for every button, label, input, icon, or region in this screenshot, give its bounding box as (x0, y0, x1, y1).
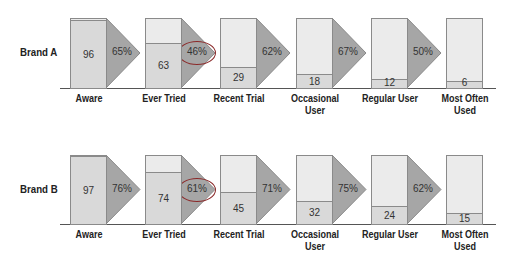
stage-bar: 12 (371, 18, 408, 89)
stage-bar: 6 (446, 18, 483, 89)
bar-value: 96 (71, 49, 106, 60)
stage-bar: 74 (145, 155, 182, 225)
baseline-axis (60, 224, 496, 225)
stage-label-line1: Occasional (279, 93, 351, 105)
bar-value: 97 (71, 185, 106, 196)
brand-label: Brand B (20, 183, 58, 195)
stage-label: Recent Trial (203, 93, 275, 105)
stage-label-line2: Used (429, 241, 501, 253)
stage-label-line1: Ever Tried (128, 93, 200, 105)
stage-label: OccasionalUser (279, 229, 351, 253)
conversion-rate: 62% (406, 183, 440, 194)
highlight-circle (178, 178, 216, 202)
stage-label: Ever Tried (128, 93, 200, 105)
stage-bar: 15 (446, 155, 483, 225)
conversion-rate: 65% (105, 46, 139, 57)
stage-label-line2: User (279, 241, 351, 253)
bar-value: 15 (447, 213, 482, 224)
stage-label-line2: User (279, 105, 351, 117)
brand-label: Brand A (20, 46, 57, 58)
bar-value: 63 (146, 60, 181, 71)
stage-bar: 29 (220, 18, 257, 89)
stage-label: Ever Tried (128, 229, 200, 241)
stage-bar: 63 (145, 18, 182, 89)
bar-value: 18 (297, 76, 332, 87)
conversion-rate: 76% (105, 183, 139, 194)
bar-value: 6 (447, 77, 482, 88)
stage-label-line1: Most Often (429, 229, 501, 241)
stage-bar: 45 (220, 155, 257, 225)
stage-bar: 24 (371, 155, 408, 225)
stage-bar: 18 (296, 18, 333, 89)
stage-label-line1: Occasional (279, 229, 351, 241)
conversion-rate: 62% (255, 46, 289, 57)
stage-bar: 32 (296, 155, 333, 225)
stage-bar: 97 (70, 155, 107, 225)
stage-label-line1: Recent Trial (203, 229, 275, 241)
bar-value: 45 (221, 203, 256, 214)
stage-label: Most OftenUsed (429, 229, 501, 253)
stage-label: Aware (53, 93, 125, 105)
stage-label: Recent Trial (203, 229, 275, 241)
bar-value: 32 (297, 207, 332, 218)
stage-label-line1: Most Often (429, 93, 501, 105)
bar-value: 29 (221, 72, 256, 83)
conversion-rate: 67% (331, 46, 365, 57)
stage-label-line1: Aware (53, 229, 125, 241)
highlight-circle (178, 41, 216, 65)
stage-label-line1: Recent Trial (203, 93, 275, 105)
stage-label: Regular User (354, 93, 426, 105)
baseline-axis (60, 88, 496, 89)
stage-label: Regular User (354, 229, 426, 241)
conversion-rate: 50% (406, 46, 440, 57)
conversion-rate: 75% (331, 183, 365, 194)
conversion-rate: 71% (255, 183, 289, 194)
stage-label-line2: Used (429, 105, 501, 117)
bar-value: 12 (372, 77, 407, 88)
bar-value: 24 (372, 210, 407, 221)
stage-label-line1: Ever Tried (128, 229, 200, 241)
stage-bar: 96 (70, 18, 107, 89)
bar-value: 74 (146, 193, 181, 204)
stage-label-line1: Regular User (354, 93, 426, 105)
stage-label-line1: Regular User (354, 229, 426, 241)
stage-label-line1: Aware (53, 93, 125, 105)
stage-label: Most OftenUsed (429, 93, 501, 117)
stage-label: Aware (53, 229, 125, 241)
stage-label: OccasionalUser (279, 93, 351, 117)
